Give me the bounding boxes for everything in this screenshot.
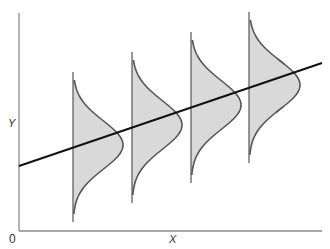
distribution-fill <box>191 40 241 175</box>
y-axis-label: Y <box>8 118 15 129</box>
regression-diagram <box>0 0 330 249</box>
regression-line <box>19 63 322 166</box>
distribution-fill <box>132 60 182 195</box>
x-axis-label: X <box>169 234 176 245</box>
origin-label: 0 <box>9 233 16 245</box>
distribution-fill <box>73 80 123 214</box>
distribution-fill <box>249 20 300 155</box>
conditional-distributions <box>73 12 300 222</box>
